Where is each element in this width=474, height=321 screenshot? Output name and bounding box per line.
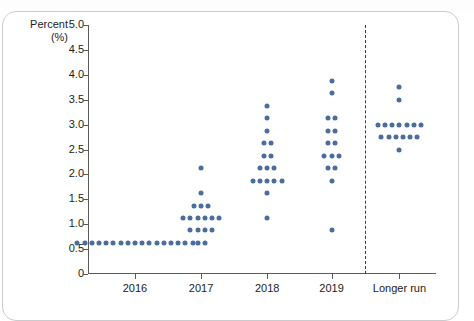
y-axis-tick-label: 3.0 [50,118,84,130]
data-point [265,128,270,133]
y-axis-tick [83,224,88,225]
data-point [333,166,338,171]
y-axis-tick [83,25,88,26]
data-point [195,215,200,220]
data-point [154,240,159,245]
data-point [326,116,331,121]
data-point [333,116,338,121]
data-point [326,141,331,146]
data-point [397,122,402,127]
data-point [258,166,263,171]
data-point [336,153,341,158]
y-axis-tick-label: 5.0 [50,18,84,30]
data-point [258,178,263,183]
data-point [111,240,116,245]
data-point [265,215,270,220]
data-point [89,240,94,245]
data-point [397,147,402,152]
y-axis-tick-label: 4.5 [50,43,84,55]
y-axis-tick-label: 1.0 [50,217,84,229]
data-point [333,128,338,133]
data-point [183,240,188,245]
data-point [199,191,204,196]
data-point [209,215,214,220]
data-point [140,240,145,245]
y-axis-tick-label: 2.0 [50,167,84,179]
x-axis-tick-label-2017: 2017 [189,282,213,294]
data-point [195,240,200,245]
x-axis-tick-label-longer-run: Longer run [373,282,426,294]
data-point [272,166,277,171]
data-point [419,122,424,127]
data-point [96,240,101,245]
data-point [265,191,270,196]
x-axis-tick-label-2018: 2018 [255,282,279,294]
x-axis-tick [332,274,333,279]
x-axis-tick-label-2019: 2019 [319,282,343,294]
x-axis-tick [201,274,202,279]
data-point [265,166,270,171]
data-point [322,153,327,158]
y-axis-tick [83,249,88,250]
y-axis-tick [83,274,88,275]
data-point [199,166,204,171]
data-point [206,203,211,208]
y-axis-tick [83,150,88,151]
data-point [202,215,207,220]
data-point [147,240,152,245]
data-point [199,203,204,208]
data-point [408,135,413,140]
data-point [401,135,406,140]
y-axis-tick-labels: 5.04.54.03.53.02.52.01.51.00.50 [46,25,84,274]
data-point [379,135,384,140]
data-point [375,122,380,127]
data-point [326,166,331,171]
data-point [390,122,395,127]
y-axis-tick [83,199,88,200]
data-point [132,240,137,245]
data-point [329,228,334,233]
data-point [118,240,123,245]
data-point [104,240,109,245]
x-axis-tick [135,274,136,279]
data-point [191,203,196,208]
data-point [326,128,331,133]
dot-plot-figure: Percent (%) 5.04.54.03.53.02.52.01.51.00… [0,0,474,321]
data-point [329,153,334,158]
data-point [411,122,416,127]
data-point [209,228,214,233]
y-axis-tick-label: 3.5 [50,93,84,105]
data-point [161,240,166,245]
plot-area [88,25,436,274]
data-point [125,240,130,245]
data-point [268,141,273,146]
data-point [202,228,207,233]
data-point [383,122,388,127]
data-point [329,91,334,96]
data-point [415,135,420,140]
x-axis-tick [399,274,400,279]
x-axis-line [88,273,436,274]
data-point [265,103,270,108]
data-point [250,178,255,183]
data-point [268,153,273,158]
y-axis-tick-label: 0 [50,267,84,279]
y-axis-tick [83,50,88,51]
data-point [181,215,186,220]
data-point [265,178,270,183]
data-point [333,141,338,146]
data-point [82,240,87,245]
y-axis-tick [83,125,88,126]
data-point [386,135,391,140]
data-point [279,178,284,183]
data-point [176,240,181,245]
x-axis-tick [267,274,268,279]
data-point [75,240,80,245]
data-point [272,178,277,183]
scan-margin-top [0,0,474,11]
x-axis-tick-label-2016: 2016 [123,282,147,294]
data-point [397,85,402,90]
y-axis-tick-label: 4.0 [50,68,84,80]
data-point [261,153,266,158]
data-point [265,116,270,121]
